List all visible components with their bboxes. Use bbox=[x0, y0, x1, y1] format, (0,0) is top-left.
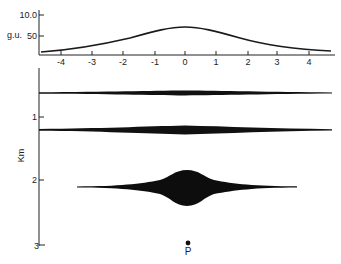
top-y-tick-label: 10.0 bbox=[19, 11, 37, 20]
depth-axis bbox=[39, 68, 45, 246]
gravity-curve bbox=[41, 27, 331, 52]
x-tick-label: 3 bbox=[274, 58, 279, 67]
middle-body bbox=[39, 126, 332, 135]
top-y-tick-label: 50 bbox=[27, 32, 37, 41]
depth-tick-label: 3 bbox=[34, 242, 39, 251]
gravity-anomaly-figure: g.u. 10.0 50 -4 -3 -2 -1 0 1 2 3 4 Km 1 … bbox=[0, 0, 341, 264]
x-tick-label: -4 bbox=[57, 58, 65, 67]
x-tick-label: 0 bbox=[182, 58, 187, 67]
point-p-marker bbox=[186, 241, 191, 246]
x-tick-label: -3 bbox=[88, 58, 96, 67]
depth-tick-label: 2 bbox=[32, 176, 37, 185]
x-tick-label: 2 bbox=[245, 58, 250, 67]
depth-axis-label: Km bbox=[17, 149, 26, 163]
point-p-label: P bbox=[185, 247, 192, 256]
x-tick-label: -1 bbox=[151, 58, 159, 67]
x-tick-label: 1 bbox=[213, 58, 218, 67]
shallow-body bbox=[39, 91, 332, 96]
top-y-axis-label: g.u. bbox=[7, 31, 22, 40]
x-tick-label: -2 bbox=[119, 58, 127, 67]
figure-canvas bbox=[0, 0, 341, 264]
x-tick-label: 4 bbox=[306, 58, 311, 67]
depth-tick-label: 1 bbox=[32, 113, 37, 122]
deep-body bbox=[77, 170, 297, 206]
